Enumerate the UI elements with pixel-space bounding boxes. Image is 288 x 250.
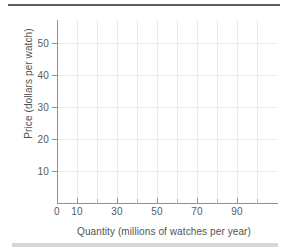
y-axis-tick xyxy=(52,107,58,108)
y-axis-title: Price (dollars per watch) xyxy=(23,9,34,159)
x-axis-tick-label: 10 xyxy=(66,207,88,217)
gridline-vertical xyxy=(137,20,138,203)
x-axis-tick-label: 0 xyxy=(46,207,68,217)
chart-figure: 10 20 30 40 50 0 10 30 50 70 90 Price (d… xyxy=(0,0,288,250)
gridline-horizontal xyxy=(57,43,277,44)
x-axis-tick xyxy=(197,198,198,204)
x-axis-tick-label: 30 xyxy=(106,207,128,217)
y-axis-tick xyxy=(52,75,58,76)
x-axis-minor-tick xyxy=(137,199,138,204)
x-axis-title: Quantity (millions of watches per year) xyxy=(44,226,284,237)
top-divider-rule xyxy=(8,4,280,6)
gridline-horizontal xyxy=(57,107,277,108)
gridline-vertical xyxy=(237,20,238,203)
gridline-vertical xyxy=(257,20,258,203)
x-axis-minor-tick xyxy=(97,199,98,204)
y-axis-tick xyxy=(52,171,58,172)
gridline-vertical xyxy=(157,20,158,203)
x-axis-minor-tick xyxy=(257,199,258,204)
y-axis-tick-label: 10 xyxy=(27,167,49,177)
y-axis-tick xyxy=(52,139,58,140)
x-axis-tick xyxy=(77,198,78,204)
gridline-horizontal xyxy=(57,75,277,76)
gridline-vertical xyxy=(217,20,218,203)
x-axis-spine xyxy=(57,203,278,204)
x-axis-tick xyxy=(57,198,58,204)
gridline-vertical xyxy=(117,20,118,203)
x-axis-tick xyxy=(157,198,158,204)
gridline-vertical xyxy=(197,20,198,203)
y-axis-spine xyxy=(57,20,58,204)
gridline-vertical xyxy=(97,20,98,203)
gridline-horizontal xyxy=(57,139,277,140)
x-axis-minor-tick xyxy=(217,199,218,204)
x-axis-minor-tick xyxy=(177,199,178,204)
x-axis-tick-label: 50 xyxy=(146,207,168,217)
gridline-horizontal xyxy=(57,171,277,172)
x-axis-tick-label: 70 xyxy=(186,207,208,217)
x-axis-tick-label: 90 xyxy=(226,207,248,217)
bottom-divider-bar xyxy=(12,243,278,247)
x-axis-tick xyxy=(117,198,118,204)
plot-area xyxy=(57,20,277,203)
x-axis-tick xyxy=(237,198,238,204)
gridline-vertical xyxy=(77,20,78,203)
y-axis-tick xyxy=(52,43,58,44)
gridline-vertical xyxy=(177,20,178,203)
